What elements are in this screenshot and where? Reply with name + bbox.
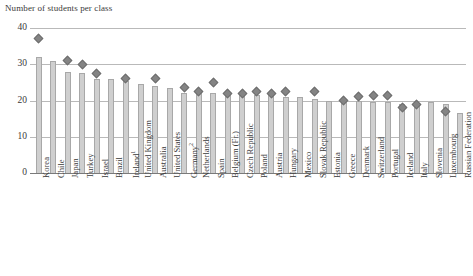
data-point-marker	[92, 68, 102, 78]
x-axis-category-label: Czech Republic	[246, 123, 255, 178]
x-axis-category-label: Austria	[275, 153, 284, 178]
x-axis-category-label: Mexico	[304, 152, 313, 178]
y-axis-tick-label: 40	[5, 23, 27, 33]
x-axis-category-label: Belgium (Fr.)	[231, 131, 240, 178]
x-axis-category-label: Luxembourg	[449, 134, 458, 178]
x-axis-category-label: Poland	[260, 154, 269, 178]
data-point-marker	[34, 34, 44, 44]
data-point-marker	[208, 77, 218, 87]
bar	[50, 61, 56, 173]
y-axis-tick-label: 20	[5, 96, 27, 106]
x-axis-category-label: United States	[173, 132, 182, 178]
y-axis: 010203040	[0, 0, 27, 276]
x-axis-category-label: Italy	[420, 162, 429, 178]
x-axis-category-label: Slovak Republic	[319, 121, 328, 178]
data-point-marker	[150, 74, 160, 84]
x-axis-category-label: Israel	[101, 159, 110, 178]
x-axis-category-label: Denmark	[362, 146, 371, 178]
x-axis-category-label: Chile	[57, 159, 66, 178]
data-point-marker	[281, 86, 291, 96]
x-axis-category-label: Netherlands	[202, 136, 211, 178]
x-axis-category-label: Spain	[217, 158, 226, 178]
gridline	[30, 64, 466, 65]
y-axis-tick-label: 10	[5, 132, 27, 142]
x-axis-category-label: Germany2	[188, 143, 198, 178]
x-axis-category-label: United Kingdom	[144, 120, 153, 178]
data-point-marker	[77, 59, 87, 69]
data-point-marker	[179, 83, 189, 93]
x-axis-category-label: Australia	[159, 146, 168, 178]
y-axis-tick-label: 30	[5, 59, 27, 69]
bar	[36, 57, 42, 173]
x-axis-category-label: Iceland	[406, 153, 415, 178]
data-point-marker	[383, 90, 393, 100]
x-axis-category-label: Russian Federation	[464, 112, 473, 178]
data-point-marker	[310, 86, 320, 96]
y-axis-tick-label: 0	[5, 168, 27, 178]
x-axis-category-label: Ireland1	[130, 151, 140, 178]
x-axis-category-label: Switzerland	[377, 137, 386, 178]
x-axis-category-label: Slovenia	[435, 148, 444, 178]
x-axis-category-label: Brazil	[115, 157, 124, 178]
gridline	[30, 28, 466, 29]
x-axis-category-label: Greece	[348, 154, 357, 178]
x-axis-category-label: Korea	[42, 157, 51, 178]
x-axis-category-label: Portugal	[391, 149, 400, 178]
data-point-marker	[368, 90, 378, 100]
x-axis-category-label: Turkey	[86, 153, 95, 178]
x-axis-category-label: Hungary	[289, 148, 298, 178]
x-axis-category-label: Estonia	[333, 152, 342, 178]
x-axis-category-label: Japan	[71, 158, 80, 178]
